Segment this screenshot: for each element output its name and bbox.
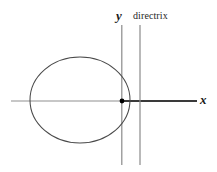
conic-diagram-figure: y x directrix	[0, 0, 217, 172]
diagram-canvas	[0, 0, 217, 172]
y-axis-label: y	[116, 9, 122, 22]
ellipse-curve	[30, 57, 130, 143]
focus-point-dot	[120, 99, 125, 104]
directrix-label: directrix	[133, 11, 168, 21]
x-axis-label: x	[200, 93, 207, 106]
